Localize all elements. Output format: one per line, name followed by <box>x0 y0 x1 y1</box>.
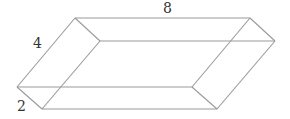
edge-left-front-slant <box>42 41 100 109</box>
width-label: 4 <box>33 35 42 51</box>
rectangular-prism-diagram: 8 4 2 <box>0 0 290 119</box>
edge-top-right-short <box>250 18 275 41</box>
height-label: 2 <box>17 98 26 114</box>
edge-right-back-slant <box>192 18 250 87</box>
edge-left-back-slant <box>17 18 75 87</box>
length-label: 8 <box>163 0 172 16</box>
edge-top-left-short <box>75 18 100 41</box>
edge-bottom-right-short <box>192 87 217 109</box>
edge-right-front-slant <box>217 41 275 109</box>
